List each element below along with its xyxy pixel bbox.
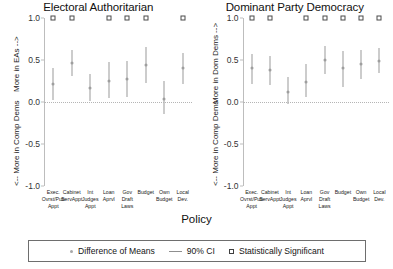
y-tick-label: 0.0: [28, 97, 40, 107]
x-tick-labels-left: Exec. Ovrst/Pub ApptCabinet ServApptInt …: [44, 186, 192, 216]
plot-area-right: 1.00.50.0-0.5-1.0 Exec. Ovrst/Pub ApptCa…: [243, 18, 389, 186]
y-axis-label-lower-right: <-- More in Comp Dems: [211, 100, 220, 186]
difference-of-means-point: [107, 80, 110, 83]
zero-reference-line: [243, 102, 389, 103]
difference-of-means-point: [89, 86, 92, 89]
statistically-significant-marker: [249, 16, 254, 21]
difference-of-means-point: [52, 82, 55, 85]
y-axis-label-lower-left: <-- More in Comp Dems: [12, 100, 21, 186]
legend-item: Statistically Significant: [229, 246, 324, 256]
y-axis-label-upper-right: More in Dom Dems -->: [211, 23, 220, 104]
panel-electoral-authoritarian: Electoral Authoritarian More in EAs --> …: [0, 0, 197, 215]
statistically-significant-marker: [180, 16, 185, 21]
panel-title-left: Electoral Authoritarian: [0, 1, 197, 13]
legend-item: 90% CI: [169, 246, 215, 256]
x-tick-label: Local Dev.: [166, 189, 200, 203]
difference-of-means-point: [126, 78, 129, 81]
legend-label: Difference of Means: [78, 246, 155, 256]
difference-of-means-point: [268, 69, 271, 72]
y-axis-label-upper-left: More in EAs -->: [12, 36, 21, 92]
chart-legend: Difference of Means90% CIStatistically S…: [28, 240, 366, 262]
legend-dot-icon: [70, 250, 73, 253]
y-tick-label: 1.0: [227, 13, 239, 23]
chart-figure: Electoral Authoritarian More in EAs --> …: [0, 0, 393, 269]
difference-of-means-point: [181, 66, 184, 69]
y-tick-label: 0.0: [227, 97, 239, 107]
x-tick-labels-right: Exec. Ovrst/Pub ApptCabinet ServApptInt …: [243, 186, 389, 216]
panel-dominant-party-democracy: Dominant Party Democracy More in Dom Dem…: [197, 0, 393, 215]
y-tick-label: 1.0: [28, 13, 40, 23]
y-tick-label: 0.5: [28, 55, 40, 65]
difference-of-means-point: [144, 64, 147, 67]
legend-square-icon: [229, 249, 234, 254]
zero-reference-line: [44, 102, 192, 103]
statistically-significant-marker: [267, 16, 272, 21]
statistically-significant-marker: [322, 16, 327, 21]
difference-of-means-point: [70, 62, 73, 65]
panel-title-right: Dominant Party Democracy: [197, 1, 393, 13]
x-axis-title: Policy: [0, 213, 393, 225]
difference-of-means-point: [250, 67, 253, 70]
statistically-significant-marker: [359, 16, 364, 21]
statistically-significant-marker: [143, 16, 148, 21]
statistically-significant-marker: [340, 16, 345, 21]
y-tick-label: -0.5: [25, 139, 40, 149]
difference-of-means-point: [163, 97, 166, 100]
difference-of-means-point: [378, 59, 381, 62]
legend-line-icon: [169, 251, 182, 252]
statistically-significant-marker: [51, 16, 56, 21]
legend-label: Statistically Significant: [239, 246, 324, 256]
statistically-significant-marker: [106, 16, 111, 21]
statistically-significant-marker: [69, 16, 74, 21]
statistically-significant-marker: [304, 16, 309, 21]
statistically-significant-marker: [377, 16, 382, 21]
plot-area-left: 1.00.50.0-0.5-1.0 Exec. Ovrst/Pub ApptCa…: [44, 18, 192, 186]
legend-item: Difference of Means: [70, 246, 155, 256]
difference-of-means-point: [287, 90, 290, 93]
difference-of-means-point: [305, 80, 308, 83]
legend-label: 90% CI: [187, 246, 215, 256]
difference-of-means-point: [341, 66, 344, 69]
y-tick-label: 0.5: [227, 55, 239, 65]
panel-container: Electoral Authoritarian More in EAs --> …: [0, 0, 393, 215]
x-tick-label: Local Dev.: [362, 189, 393, 203]
statistically-significant-marker: [125, 16, 130, 21]
difference-of-means-point: [323, 59, 326, 62]
y-tick-label: -0.5: [224, 139, 239, 149]
difference-of-means-point: [360, 63, 363, 66]
